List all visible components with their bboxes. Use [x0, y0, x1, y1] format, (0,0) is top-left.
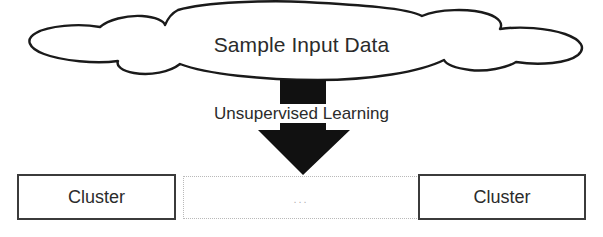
down-arrow-icon	[252, 78, 358, 178]
cluster-box-right-label: Cluster	[473, 187, 530, 208]
cluster-box-right[interactable]: Cluster	[418, 174, 586, 220]
arrow-label: Unsupervised Learning	[212, 104, 391, 123]
unsupervised-learning-arrow	[252, 78, 358, 178]
cluster-box-left[interactable]: Cluster	[17, 174, 176, 220]
cloud-label: Sample Input Data	[0, 33, 603, 57]
arrow-label-wrapper: Unsupervised Learning	[0, 104, 603, 124]
ellipsis-box: ...	[183, 176, 419, 219]
ellipsis-label: ...	[293, 193, 308, 205]
arrow-shape	[258, 80, 350, 175]
diagram-canvas: Sample Input Data Unsupervised Learning …	[0, 0, 603, 237]
cluster-box-left-label: Cluster	[68, 187, 125, 208]
